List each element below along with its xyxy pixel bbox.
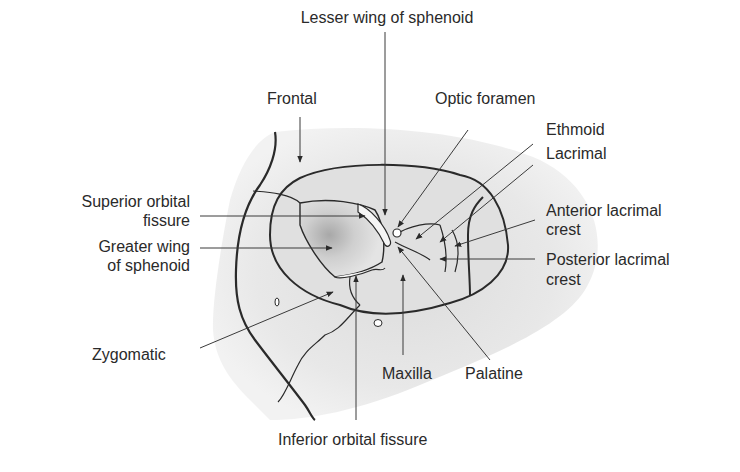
label-anterior-lacrimal-crest-line1: Anterior lacrimal: [546, 201, 662, 220]
label-lacrimal: Lacrimal: [546, 144, 606, 163]
label-greater-wing-line2: of sphenoid: [30, 256, 190, 275]
label-posterior-lacrimal-crest-line2: crest: [546, 270, 581, 289]
label-lesser-wing-of-sphenoid: Lesser wing of sphenoid: [252, 8, 522, 27]
label-greater-wing-line1: Greater wing: [30, 237, 190, 256]
zygomaticofacial-foramen: [275, 298, 279, 306]
label-maxilla: Maxilla: [382, 364, 432, 383]
label-zygomatic: Zygomatic: [92, 345, 166, 364]
label-anterior-lacrimal-crest-line2: crest: [546, 220, 581, 239]
label-posterior-lacrimal-crest-line1: Posterior lacrimal: [546, 250, 670, 269]
label-inferior-orbital-fissure: Inferior orbital fissure: [278, 430, 427, 449]
infraorbital-foramen: [374, 320, 382, 327]
label-frontal: Frontal: [267, 89, 317, 108]
label-palatine: Palatine: [465, 364, 523, 383]
orbit-diagram: [0, 0, 740, 472]
label-superior-orbital-fissure-line1: Superior orbital: [30, 192, 190, 211]
label-optic-foramen: Optic foramen: [435, 89, 535, 108]
optic-foramen-hole: [393, 229, 401, 237]
label-superior-orbital-fissure-line2: fissure: [30, 211, 190, 230]
label-ethmoid: Ethmoid: [546, 120, 605, 139]
